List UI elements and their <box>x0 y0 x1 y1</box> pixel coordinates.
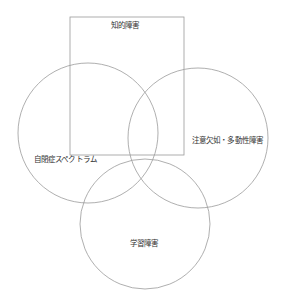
intellectual-disability-label: 知的障害 <box>111 21 139 31</box>
learning-disability-label: 学習障害 <box>130 239 158 249</box>
autism-spectrum-circle <box>18 63 158 203</box>
learning-disability-circle <box>80 159 210 289</box>
adhd-label: 注意欠如・多動性障害 <box>192 136 263 146</box>
venn-diagram <box>0 0 284 304</box>
autism-spectrum-label: 自閉症スペクトラム <box>34 155 97 165</box>
intellectual-disability-rectangle <box>70 17 184 155</box>
